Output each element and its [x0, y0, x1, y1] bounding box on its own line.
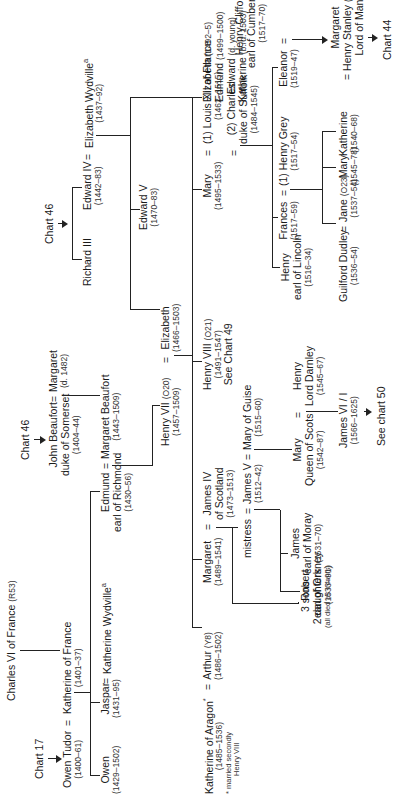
james-moray: James earl of Moray (1531–70)	[290, 513, 323, 574]
dates: (1533–91)	[324, 552, 334, 618]
chart-46-ref-a: Chart 46	[20, 420, 32, 460]
marriage-symbol: =	[48, 396, 60, 402]
label: Chart 44	[382, 20, 394, 60]
line	[130, 98, 131, 136]
marriage-symbol: =	[242, 454, 254, 460]
dates: (1442–83)	[94, 162, 104, 210]
label: Chart 17	[33, 739, 45, 779]
margaret-tudor: Margaret (1489–1541)	[202, 538, 223, 586]
chart-17-ref: Chart 17	[34, 739, 46, 779]
line	[20, 650, 60, 651]
line	[232, 527, 238, 528]
margaret-clifford: Margaret = Henry Stanley (NA59) Lord of …	[330, 0, 365, 80]
name: Guilford Dudley	[338, 230, 350, 302]
dates: (1486–1502)	[214, 632, 224, 680]
jaspar: Jaspar (1431–95)	[100, 679, 121, 718]
name: Edward IV	[82, 162, 94, 210]
marriage-symbol: =	[202, 524, 214, 530]
name: Charles VI of France	[5, 605, 17, 701]
dates: (1517–70)	[258, 0, 268, 68]
name: Henry VIII	[201, 343, 213, 390]
arrow-down-icon	[62, 220, 68, 228]
line	[74, 692, 90, 693]
dates: (1489–1541)	[214, 538, 224, 586]
marriage-symbol: =	[100, 678, 112, 684]
title: of Scotland	[214, 467, 226, 520]
name: Arthur	[201, 651, 213, 680]
owen-tudor: Owen Tudor (1400–61)	[62, 731, 83, 788]
frances: Frances (1517–59)	[278, 201, 299, 240]
charles-vi: Charles VI of France (R53)	[6, 581, 18, 701]
name: Edward V	[138, 184, 150, 230]
dates: (1531–70)	[314, 513, 324, 574]
henry-darnley: Henry Lord Darnley (1545–67)	[292, 346, 325, 406]
line	[322, 132, 323, 224]
line	[280, 553, 288, 554]
title: Lord of Man	[354, 0, 366, 80]
line	[72, 188, 73, 260]
note: *	[201, 698, 210, 701]
henry-vii: Henry VII (O20) (1457–1509)	[160, 378, 181, 446]
name: Katherine	[338, 111, 350, 156]
arrow-down-icon	[372, 34, 378, 42]
line	[240, 145, 272, 146]
name: Katherine Wydville	[101, 587, 113, 674]
line	[62, 395, 100, 396]
note: a	[81, 59, 90, 63]
dates: (1536–54)	[350, 230, 360, 302]
name: Edmund	[213, 63, 225, 102]
see-chart-44-link[interactable]: Chart 44	[382, 20, 394, 60]
james-vi-i: James VI / I (1566–1625)	[338, 393, 359, 448]
name: Margaret	[48, 350, 60, 392]
name: mistress	[242, 519, 254, 558]
line	[192, 627, 202, 628]
note: a	[99, 583, 108, 587]
line	[272, 68, 273, 268]
marriage-symbol: =	[100, 463, 112, 469]
line	[48, 758, 56, 759]
name: Elizabeth Wydville	[83, 63, 95, 148]
line	[322, 131, 336, 132]
dates: (1517–59)	[290, 201, 300, 240]
mary-tudor: Mary (1495–1533)	[202, 162, 223, 210]
footnote: Henry VIII	[233, 698, 241, 794]
arrow-down-icon	[366, 408, 372, 416]
marriage-symbol: =	[228, 150, 240, 156]
see-chart-50-link[interactable]: See chart 50	[376, 386, 388, 446]
title: Queen of Scots	[304, 414, 316, 486]
dates: (1404–44)	[72, 394, 82, 476]
line	[130, 136, 131, 310]
dates: (1542–87)	[316, 414, 326, 486]
elizabeth-of-york: Elizabeth (1466–1503)	[160, 304, 181, 352]
name: Mary	[292, 414, 304, 486]
line	[130, 97, 192, 98]
dates: (d. 1482)	[60, 350, 70, 392]
ref: (O21)	[203, 319, 213, 341]
line	[96, 135, 130, 136]
marriage-symbol: =	[82, 154, 94, 160]
name: Katherine of Aragon	[203, 701, 215, 794]
label: Chart 46	[19, 420, 31, 460]
katherine-grey: Katherine (1540–68)	[338, 111, 359, 156]
arrow-down-icon	[322, 36, 328, 44]
margaret-d1482: Margaret (d. 1482)	[48, 350, 69, 392]
dates: (1517–54)	[290, 117, 300, 186]
line	[280, 591, 300, 592]
marriage-symbol: =	[62, 720, 74, 726]
line	[290, 189, 322, 190]
dates: (1512–42)	[254, 463, 264, 504]
title: earl of Lincoln	[292, 235, 304, 300]
line	[130, 309, 160, 310]
name: Jane	[337, 199, 349, 222]
name: Elizabeth	[160, 304, 172, 352]
dates: (1540–68)	[350, 111, 360, 156]
line	[232, 528, 233, 604]
dates: (1473–1513)	[226, 467, 236, 520]
see-chart-49-link[interactable]: See Chart 49	[223, 319, 235, 390]
owen: Owen (1429–1502)	[100, 746, 121, 794]
dates: (1429–1502)	[112, 746, 122, 794]
label: Chart 46	[43, 204, 55, 244]
henry-viii: Henry VIII (O21) (1491–1547) See Chart 4…	[202, 319, 235, 390]
line	[292, 39, 322, 40]
title: duke of Somerset	[60, 394, 72, 476]
